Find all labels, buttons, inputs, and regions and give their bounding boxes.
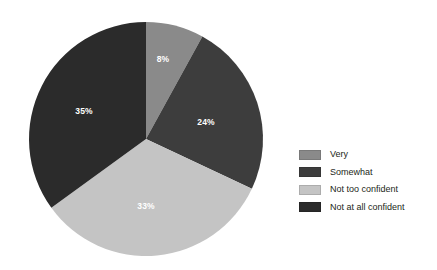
pie-slice-value-label: 8% [157, 54, 170, 64]
legend-color-swatch [299, 150, 321, 160]
pie-chart: 8%24%33%35% [0, 0, 437, 270]
legend-color-swatch [299, 185, 321, 195]
legend-item[interactable]: Somewhat [299, 164, 435, 182]
pie-slice-value-label: 33% [137, 201, 155, 211]
legend-item-label: Not at all confident [330, 203, 405, 212]
legend-item-label: Somewhat [330, 168, 373, 177]
chart-canvas: 8%24%33%35% VerySomewhatNot too confiden… [0, 0, 437, 270]
legend-item[interactable]: Very [299, 146, 435, 164]
legend-color-swatch [299, 202, 321, 212]
pie-slice-group [29, 22, 263, 256]
legend-item-label: Not too confident [330, 185, 398, 194]
legend-item[interactable]: Not too confident [299, 181, 435, 199]
pie-slice-value-label: 24% [197, 117, 215, 127]
legend-item[interactable]: Not at all confident [299, 199, 435, 217]
legend-color-swatch [299, 167, 321, 177]
pie-slice-value-label: 35% [75, 106, 93, 116]
legend-item-label: Very [330, 150, 348, 159]
chart-legend: VerySomewhatNot too confidentNot at all … [299, 146, 435, 216]
